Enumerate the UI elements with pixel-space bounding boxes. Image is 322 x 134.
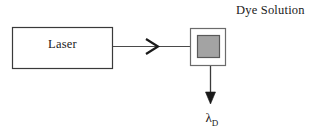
laser-box-label: Laser [12, 38, 113, 51]
dye-solution-caption: Dye Solution [236, 4, 305, 17]
diagram-canvas [0, 0, 322, 134]
emission-wavelength-label: λD [196, 111, 228, 128]
laser-dye-solution-diagram: Laser Dye Solution λD [0, 0, 322, 134]
cuvette-dye-sample [198, 36, 220, 58]
emission-arrowhead-icon [206, 92, 216, 104]
lambda-subscript: D [212, 118, 219, 128]
